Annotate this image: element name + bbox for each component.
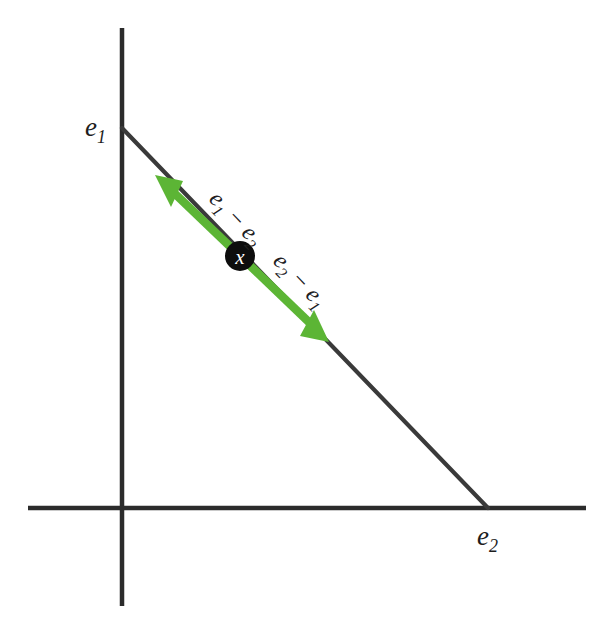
axis-label-e1-subscript: 1 [97, 127, 106, 147]
axis-label-e2-subscript: 2 [489, 536, 498, 556]
axis-label-e2-base: e [477, 521, 489, 551]
axis-label-e1-base: e [85, 112, 97, 142]
figure-canvas: x e1 e2 e1 − e2 e2 − e1 [0, 0, 612, 636]
vector-diagram: x e1 e2 e1 − e2 e2 − e1 [0, 0, 612, 636]
